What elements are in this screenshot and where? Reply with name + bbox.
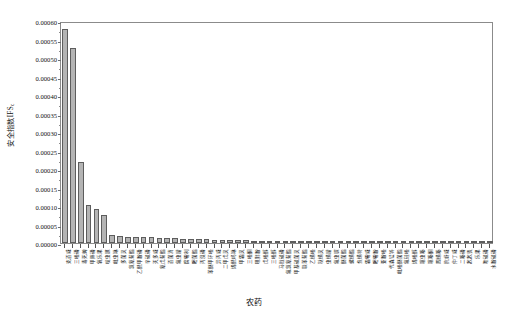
y-axis-title-subscript: c — [9, 103, 15, 106]
x-tick-mark — [332, 244, 333, 248]
x-tick-mark — [402, 244, 403, 248]
bar — [377, 241, 383, 243]
y-minor-tick-mark — [59, 88, 61, 89]
x-tick-mark — [80, 244, 81, 248]
y-minor-tick-mark — [59, 180, 61, 181]
bar — [275, 241, 281, 243]
x-tick-mark — [158, 244, 159, 248]
y-tick-mark — [58, 208, 62, 209]
y-tick-mark — [58, 190, 62, 191]
x-tick-label: 二甲戊灵 — [223, 249, 228, 269]
x-tick-label: 吡唑醚菌酯 — [397, 249, 402, 274]
bar — [204, 239, 210, 243]
y-tick-mark — [58, 116, 62, 117]
x-tick-mark — [64, 244, 65, 248]
bar — [424, 241, 430, 243]
y-tick-label: 0.00025 — [36, 148, 57, 155]
x-tick-mark — [481, 244, 482, 248]
x-tick-mark — [95, 244, 96, 248]
x-tick-mark — [426, 244, 427, 248]
bar — [298, 241, 304, 243]
x-tick-label: 甲基硫菌灵 — [294, 249, 299, 274]
x-tick-label: 氯氰菊酯 — [129, 249, 134, 269]
x-tick-mark — [292, 244, 293, 248]
x-tick-mark — [458, 244, 459, 248]
bar — [409, 241, 415, 243]
bar — [101, 215, 107, 243]
y-minor-tick-mark — [59, 125, 61, 126]
x-tick-mark — [88, 244, 89, 248]
bar — [314, 241, 320, 243]
bar — [235, 240, 241, 243]
x-tick-label: 毒死蜱 — [82, 249, 87, 264]
bar — [416, 241, 422, 243]
x-tick-mark — [119, 244, 120, 248]
x-tick-mark — [284, 244, 285, 248]
x-tick-mark — [237, 244, 238, 248]
bar — [117, 236, 123, 243]
x-tick-mark — [190, 244, 191, 248]
bar — [479, 241, 485, 243]
x-tick-mark — [135, 244, 136, 248]
x-tick-mark — [316, 244, 317, 248]
bar — [149, 237, 155, 243]
bar — [346, 241, 352, 243]
y-minor-tick-mark — [59, 69, 61, 70]
bar — [322, 241, 328, 243]
x-tick-label: 氧乐果 — [97, 249, 102, 264]
x-tick-label: 马拉硫磷 — [279, 249, 284, 269]
bar — [196, 239, 202, 243]
x-tick-label: 嘧菌酯 — [192, 249, 197, 264]
bar — [78, 162, 84, 243]
chart-figure: 安全指数IFSc 0.000000.000050.000100.000150.0… — [0, 0, 508, 317]
y-tick-label: 0.00045 — [36, 74, 57, 81]
x-tick-mark — [363, 244, 364, 248]
x-tick-label: 代森锰锌 — [389, 249, 394, 269]
x-tick-label: 氟虫腈 — [176, 249, 181, 264]
bar — [70, 48, 76, 243]
x-tick-mark — [387, 244, 388, 248]
bar — [464, 241, 470, 243]
x-tick-label: 甲拌磷 — [90, 249, 95, 264]
y-tick-label: 0.00055 — [36, 37, 57, 44]
x-tick-mark — [151, 244, 152, 248]
bar — [157, 238, 163, 243]
x-tick-mark — [253, 244, 254, 248]
y-minor-tick-mark — [59, 51, 61, 52]
x-tick-mark — [395, 244, 396, 248]
bar — [141, 237, 147, 243]
x-tick-label: 水胺硫磷 — [491, 249, 496, 269]
bar — [251, 241, 257, 243]
x-tick-label: 腐霉利 — [184, 249, 189, 264]
x-tick-label: 丙溴磷 — [200, 249, 205, 264]
x-axis-tick-labels: 克百威三唑磷毒死蜱甲拌磷氧乐果啶虫脒吡虫啉多菌灵氯氰菊酯乙酰甲胺磷辛硫磷灭多威氰… — [60, 249, 493, 295]
x-tick-label: 三唑酮 — [247, 249, 252, 264]
x-tick-label: 仲丁威 — [452, 249, 457, 264]
x-tick-mark — [450, 244, 451, 248]
x-tick-mark — [245, 244, 246, 248]
x-tick-label: 噻嗪酮 — [428, 249, 433, 264]
x-tick-label: 抗蚜威 — [444, 249, 449, 264]
x-tick-mark — [324, 244, 325, 248]
bar — [172, 238, 178, 243]
y-tick-mark — [58, 79, 62, 80]
x-tick-label: 异丙威 — [216, 249, 221, 264]
x-tick-label: 辛硫磷 — [145, 249, 150, 264]
y-tick-mark — [58, 171, 62, 172]
x-tick-label: 烯唑醇 — [412, 249, 417, 264]
bar — [283, 241, 289, 243]
x-tick-mark — [221, 244, 222, 248]
x-tick-label: 霜霉威 — [365, 249, 370, 264]
y-tick-label: 0.00015 — [36, 185, 57, 192]
y-tick-label: 0.00030 — [36, 130, 57, 137]
bar — [259, 241, 265, 243]
x-tick-mark — [269, 244, 270, 248]
x-tick-mark — [465, 244, 466, 248]
x-tick-mark — [339, 244, 340, 248]
x-tick-label: 克百威 — [66, 249, 71, 264]
x-tick-label: 苯醚甲环唑 — [208, 249, 213, 274]
bar-series — [61, 23, 492, 243]
x-tick-label: 戊唑醇 — [263, 249, 268, 264]
bar — [220, 240, 226, 243]
bar — [401, 241, 407, 243]
